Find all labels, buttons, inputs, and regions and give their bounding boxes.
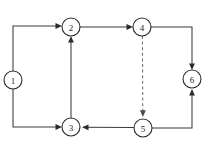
edge-1-to-3 [13, 89, 62, 130]
edge-1-to-2-arrowhead [56, 23, 63, 29]
edge-4-to-6-path [151, 27, 192, 68]
node-6[interactable]: 6 [183, 70, 201, 88]
edge-1-to-2-path [13, 26, 60, 71]
node-4-label: 4 [140, 23, 145, 33]
edge-1-to-2 [13, 23, 62, 71]
diagram-canvas: 1 2 3 4 5 6 [0, 0, 211, 150]
node-5-label: 5 [141, 124, 146, 134]
node-2-label: 2 [69, 23, 74, 33]
edge-5-to-6-arrowhead [189, 89, 195, 96]
edge-2-to-4 [80, 24, 133, 30]
node-3[interactable]: 3 [62, 118, 80, 136]
edge-5-to-3-arrowhead [82, 124, 89, 130]
edge-4-to-6 [151, 27, 195, 70]
edge-4-to-5-dashed [140, 36, 146, 117]
edge-4-to-6-arrowhead [189, 64, 195, 71]
edge-4-to-5-arrowhead [140, 110, 146, 117]
node-3-label: 3 [69, 123, 74, 133]
node-1-label: 1 [11, 76, 16, 86]
node-layer: 1 2 3 4 5 6 [4, 18, 201, 137]
edge-layer [13, 23, 195, 130]
graph-svg: 1 2 3 4 5 6 [0, 0, 211, 150]
edge-2-to-4-arrowhead [127, 24, 134, 30]
edge-5-to-3 [82, 124, 134, 130]
node-5[interactable]: 5 [134, 119, 152, 137]
edge-5-to-6-path [152, 91, 192, 128]
node-2[interactable]: 2 [62, 18, 80, 36]
edge-1-to-3-path [13, 89, 60, 127]
node-6-label: 6 [190, 75, 195, 85]
node-1[interactable]: 1 [4, 71, 22, 89]
node-4[interactable]: 4 [133, 18, 151, 36]
edge-3-to-2 [68, 36, 74, 118]
edge-5-to-6 [152, 89, 195, 128]
edge-1-to-3-arrowhead [56, 124, 63, 130]
edge-3-to-2-arrowhead [68, 36, 74, 43]
